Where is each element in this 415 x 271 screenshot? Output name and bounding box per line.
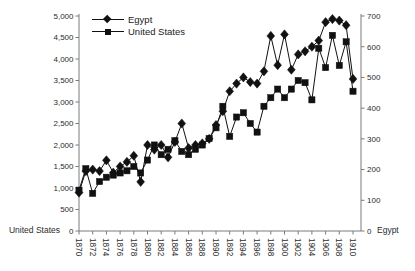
united-states-marker	[247, 120, 253, 126]
left-tick-label: 0	[69, 227, 74, 236]
united-states-marker	[138, 170, 144, 176]
egypt-marker	[178, 119, 186, 128]
egypt-marker	[294, 50, 302, 59]
x-tick-label: 1886	[184, 238, 193, 257]
united-states-marker	[110, 172, 116, 178]
diamond-marker-icon	[103, 15, 112, 24]
united-states-marker	[323, 65, 329, 71]
left-tick-label: 2,000	[53, 141, 74, 150]
left-tick-label: 4,500	[53, 33, 74, 42]
united-states-marker	[233, 114, 239, 120]
egypt-marker	[329, 14, 337, 23]
x-tick-label: 1908	[334, 238, 343, 257]
united-states-marker	[295, 77, 301, 83]
dual-axis-line-chart: 05001,0001,5002,0002,5003,0003,5004,0004…	[0, 0, 415, 271]
egypt-marker	[308, 42, 316, 51]
legend: Egypt United States	[92, 14, 185, 38]
egypt-marker	[342, 21, 350, 30]
egypt-marker	[267, 31, 275, 40]
united-states-marker	[96, 178, 102, 184]
right-tick-label: 500	[367, 73, 381, 82]
left-tick-label: 3,000	[53, 98, 74, 107]
united-states-marker	[316, 45, 322, 51]
united-states-marker	[268, 95, 274, 101]
united-states-marker	[329, 32, 335, 38]
united-states-marker	[199, 142, 205, 148]
right-tick-label: 200	[367, 165, 381, 174]
left-tick-label: 5,000	[53, 12, 74, 21]
chart-container: 05001,0001,5002,0002,5003,0003,5004,0004…	[0, 0, 415, 271]
united-states-marker	[288, 86, 294, 92]
x-tick-label: 1900	[280, 238, 289, 257]
united-states-marker	[192, 146, 198, 152]
egypt-marker	[349, 74, 357, 83]
united-states-marker	[172, 138, 178, 144]
united-states-marker	[220, 103, 226, 109]
egypt-marker	[103, 156, 111, 165]
x-tick-label: 1878	[129, 238, 138, 257]
x-tick-label: 1884	[170, 238, 179, 257]
x-tick-label: 1872	[88, 238, 97, 257]
united-states-marker	[144, 157, 150, 163]
right-tick-label: 400	[367, 104, 381, 113]
legend-us-label: United States	[128, 26, 185, 37]
legend-egypt-label: Egypt	[128, 14, 152, 25]
united-states-marker	[343, 39, 349, 45]
united-states-marker	[131, 163, 137, 169]
x-tick-label: 1890	[211, 238, 220, 257]
egypt-marker	[246, 77, 254, 86]
egypt-marker	[301, 47, 309, 56]
united-states-marker	[90, 190, 96, 196]
united-states-marker	[213, 125, 219, 131]
egypt-marker	[185, 143, 193, 152]
egypt-marker	[274, 61, 282, 70]
y-axis-right: 0100200300400500600700	[361, 12, 381, 236]
x-axis: 1870187218741876187818801882188418861888…	[74, 231, 357, 257]
united-states-marker	[206, 135, 212, 141]
united-states-marker	[240, 110, 246, 116]
left-tick-label: 3,500	[53, 76, 74, 85]
x-tick-label: 1870	[74, 238, 83, 257]
united-states-marker	[165, 146, 171, 152]
x-tick-label: 1906	[321, 238, 330, 257]
united-states-marker	[124, 168, 130, 174]
x-tick-label: 1894	[238, 238, 247, 257]
x-tick-label: 1910	[348, 238, 357, 257]
united-states-marker	[179, 148, 185, 154]
united-states-marker	[302, 80, 308, 86]
x-tick-label: 1888	[197, 238, 206, 257]
united-states-marker	[350, 88, 356, 94]
egypt-marker	[96, 167, 104, 176]
egypt-marker	[287, 65, 295, 74]
legend-item-egypt: Egypt	[92, 14, 185, 25]
united-states-marker	[336, 62, 342, 68]
united-states-marker	[261, 103, 267, 109]
united-states-marker	[117, 170, 123, 176]
x-tick-label: 1902	[293, 238, 302, 257]
egypt-marker	[253, 79, 261, 88]
united-states-marker	[76, 187, 82, 193]
x-tick-label: 1874	[101, 238, 110, 257]
egypt-marker	[157, 140, 165, 149]
x-tick-label: 1892	[225, 238, 234, 257]
united-states-marker	[83, 166, 89, 172]
left-axis-title: United States	[2, 225, 60, 235]
x-tick-label: 1898	[266, 238, 275, 257]
y-axis-left: 05001,0001,5002,0002,5003,0003,5004,0004…	[53, 12, 79, 236]
right-tick-label: 300	[367, 135, 381, 144]
egypt-marker	[315, 36, 323, 45]
left-tick-label: 2,500	[53, 119, 74, 128]
egypt-marker	[130, 151, 138, 160]
left-tick-label: 1,000	[53, 184, 74, 193]
x-tick-label: 1880	[143, 238, 152, 257]
square-marker-icon	[105, 29, 111, 35]
x-tick-label: 1896	[252, 238, 261, 257]
egypt-marker	[144, 140, 152, 149]
united-states-marker	[281, 95, 287, 101]
right-tick-label: 0	[367, 227, 372, 236]
x-tick-label: 1904	[307, 238, 316, 257]
egypt-marker	[260, 67, 268, 76]
egypt-marker	[322, 18, 330, 27]
left-tick-label: 1,500	[53, 162, 74, 171]
right-tick-label: 100	[367, 196, 381, 205]
